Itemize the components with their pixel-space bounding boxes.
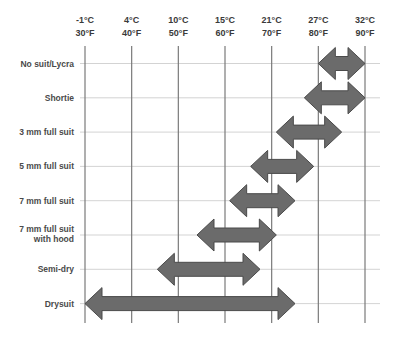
celsius-tick: 15°C <box>215 15 236 25</box>
suit-type-labels: No suit/LycraShortie3 mm full suit5 mm f… <box>19 59 74 309</box>
suit-label: 7 mm full suit <box>19 224 74 234</box>
range-arrow <box>304 82 365 114</box>
suit-label: Shortie <box>45 93 75 103</box>
suit-label: with hood <box>33 234 74 244</box>
suit-label: Drysuit <box>45 299 74 309</box>
fahrenheit-tick: 60°F <box>215 28 235 38</box>
range-arrow <box>251 150 314 182</box>
wetsuit-temperature-chart: -1°C30°F4°C40°F10°C50°F15°C60°F21°C70°F2… <box>0 0 399 340</box>
range-arrow <box>230 185 295 217</box>
range-arrow <box>197 219 276 251</box>
x-axis-tick-labels: -1°C30°F4°C40°F10°C50°F15°C60°F21°C70°F2… <box>75 15 375 38</box>
fahrenheit-tick: 40°F <box>122 28 142 38</box>
range-arrow <box>157 253 260 285</box>
celsius-tick: 4°C <box>124 15 140 25</box>
celsius-tick: 27°C <box>308 15 329 25</box>
celsius-tick: 32°C <box>355 15 376 25</box>
suit-label: 7 mm full suit <box>19 196 74 206</box>
fahrenheit-tick: 70°F <box>262 28 282 38</box>
celsius-tick: -1°C <box>76 15 95 25</box>
suit-label: 5 mm full suit <box>19 161 74 171</box>
fahrenheit-tick: 80°F <box>309 28 329 38</box>
fahrenheit-tick: 90°F <box>355 28 375 38</box>
range-arrow <box>318 48 365 80</box>
suit-label: Semi-dry <box>38 264 75 274</box>
range-arrow <box>276 116 341 148</box>
fahrenheit-tick: 50°F <box>169 28 189 38</box>
celsius-tick: 10°C <box>168 15 189 25</box>
range-arrow <box>85 288 295 320</box>
celsius-tick: 21°C <box>262 15 283 25</box>
suit-label: 3 mm full suit <box>19 127 74 137</box>
suit-label: No suit/Lycra <box>20 59 74 69</box>
fahrenheit-tick: 30°F <box>75 28 95 38</box>
vertical-gridlines <box>85 46 365 323</box>
